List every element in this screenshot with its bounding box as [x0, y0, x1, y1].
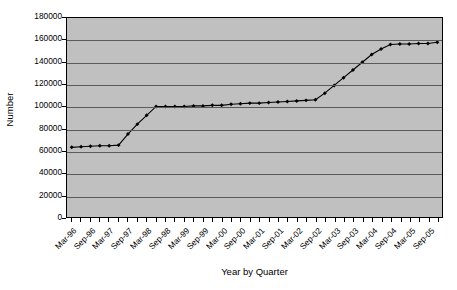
y-axis-tick-mark [62, 196, 66, 197]
x-axis-title: Year by Quarter [66, 266, 443, 277]
x-axis-tick-labels: Mar-96Sep-96Mar-97Sep-97Mar-98Sep-98Mar-… [0, 0, 457, 290]
y-axis-tick-mark [62, 129, 66, 130]
y-axis-tick-mark [62, 62, 66, 63]
y-axis-tick-mark [62, 151, 66, 152]
chart-container: Number 180000160000140000120000100000800… [0, 0, 457, 290]
y-axis-tick-mark [62, 173, 66, 174]
y-axis-tick-mark [62, 39, 66, 40]
y-axis-tick-mark [62, 84, 66, 85]
y-axis-tick-mark [62, 106, 66, 107]
y-axis-tick-mark [62, 17, 66, 18]
y-axis-tick-mark [62, 218, 66, 219]
